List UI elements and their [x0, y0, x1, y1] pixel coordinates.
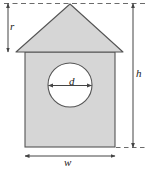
- house-geometry-diagram: r h w d: [0, 0, 150, 169]
- diameter-label: d: [69, 76, 75, 87]
- roof-triangle: [16, 4, 123, 52]
- width-label: w: [64, 157, 71, 168]
- roof-height-label: r: [10, 21, 14, 32]
- total-height-label: h: [136, 68, 142, 79]
- diagram-canvas: [0, 0, 150, 169]
